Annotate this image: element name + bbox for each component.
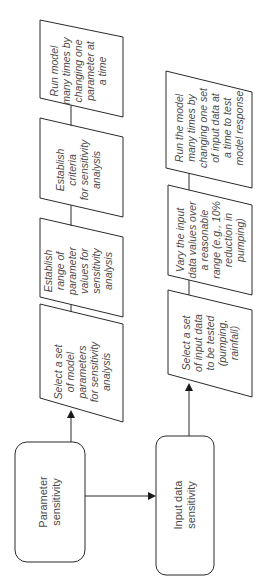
- label-line: parameters: [76, 342, 88, 403]
- label-line: data values over: [186, 201, 198, 279]
- label-line: range (e.g., 10%: [210, 201, 222, 279]
- label-line: of input data: [192, 314, 204, 372]
- parameter-step-4-label: Run model many times by changing one par…: [40, 30, 116, 112]
- label-line: a time: [96, 37, 108, 105]
- label-line: Run model: [48, 37, 60, 105]
- label-line: sensitivity: [50, 476, 63, 527]
- input-step-2-label: Vary the input data values over a reason…: [168, 195, 252, 285]
- input-step-3-label: Run the model many times by changing one…: [165, 78, 253, 178]
- label-line: values for: [78, 247, 90, 295]
- label-line: range of: [54, 247, 66, 295]
- label-line: reduction in: [222, 201, 234, 279]
- label-line: many times by: [185, 88, 197, 168]
- label-line: of input data at: [209, 88, 221, 168]
- label-line: Establish: [54, 140, 66, 201]
- label-line: sensitivity: [185, 481, 198, 530]
- parameter-step-1-label: Select a set of model parameters for sen…: [47, 327, 117, 417]
- label-line: rainfall): [228, 314, 240, 372]
- label-line: to be tested: [204, 314, 216, 372]
- label-line: Establish: [42, 247, 54, 295]
- label-line: Input data: [172, 481, 185, 530]
- label-line: Select a set: [52, 342, 64, 403]
- parameter-step-2-label: Establish range of parameter values for …: [39, 230, 117, 312]
- label-line: analysis: [90, 140, 102, 201]
- label-line: parameter: [66, 247, 78, 295]
- input-data-sensitivity-label: Input data sensitivity: [170, 445, 200, 565]
- sensitivity-analysis-flowchart: Parameter sensitivity Input data sensiti…: [0, 0, 275, 585]
- label-line: analysis: [102, 247, 114, 295]
- label-line: criteria: [66, 140, 78, 201]
- label-line: Parameter: [37, 476, 50, 527]
- label-line: analysis: [100, 342, 112, 403]
- label-line: pumping): [234, 201, 246, 279]
- arrow-right-icon: [148, 492, 156, 500]
- label-line: many times by: [60, 37, 72, 105]
- label-line: Vary the input: [174, 201, 186, 279]
- label-line: sensitivity: [90, 247, 102, 295]
- label-line: Run the model: [173, 88, 185, 168]
- label-line: changing one: [72, 37, 84, 105]
- label-line: changing one set: [197, 88, 209, 168]
- label-line: parameter at: [84, 37, 96, 105]
- input-step-1-label: Select a set of input data to be tested …: [168, 301, 252, 385]
- label-line: (pumping,: [216, 314, 228, 372]
- label-line: Select a set: [180, 314, 192, 372]
- label-line: a reasonable: [198, 201, 210, 279]
- label-line: a time to test: [221, 88, 233, 168]
- label-line: of model: [64, 342, 76, 403]
- label-line: model response: [233, 88, 245, 168]
- label-line: for sensitivity: [78, 140, 90, 201]
- label-line: for sensitivity: [88, 342, 100, 403]
- parameter-sensitivity-label: Parameter sensitivity: [35, 442, 65, 562]
- parameter-step-3-label: Establish criteria for sensitivity analy…: [40, 129, 116, 211]
